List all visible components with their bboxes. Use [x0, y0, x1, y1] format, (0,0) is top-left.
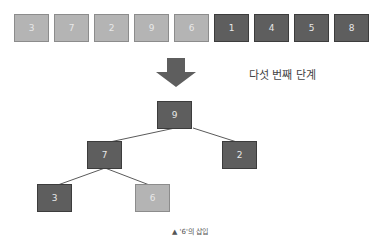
step-label: 다섯 번째 단계: [249, 66, 316, 82]
tree-node-root: 9: [157, 101, 192, 129]
tree-node-left: 7: [87, 141, 122, 169]
tree-node-left-right: 6: [135, 184, 170, 212]
down-arrow-icon: [156, 58, 196, 87]
figure-caption: ▲ '6'의 삽입: [172, 226, 208, 236]
tree-node-right: 2: [222, 141, 257, 169]
tree-node-left-left: 3: [37, 184, 72, 212]
